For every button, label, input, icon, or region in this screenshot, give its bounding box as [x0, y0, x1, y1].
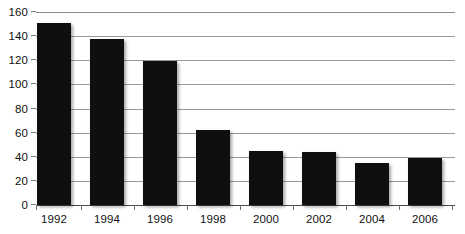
- x-axis-tick-label: 2004: [345, 212, 399, 227]
- y-axis-tick-label: 140: [9, 29, 29, 43]
- x-axis-tick-mark: [36, 205, 37, 210]
- x-axis-tick-mark: [187, 205, 188, 210]
- bar: [302, 152, 336, 205]
- y-axis-tick-label: 100: [9, 77, 29, 91]
- bar: [355, 163, 389, 205]
- x-axis-tick-mark: [399, 205, 400, 210]
- x-axis-tick-label: 1994: [80, 212, 134, 227]
- y-axis-tick: 0: [0, 198, 36, 212]
- y-axis-tick: 60: [0, 126, 36, 140]
- bar: [249, 151, 283, 205]
- gridline: [36, 12, 455, 13]
- x-axis-tick-label: 1992: [27, 212, 81, 227]
- y-axis-tick: 40: [0, 150, 36, 164]
- bar: [37, 23, 71, 205]
- y-axis-tick-label: 120: [9, 53, 29, 67]
- plot-area: [36, 12, 455, 205]
- y-axis-tick-label: 160: [9, 5, 29, 19]
- bar: [196, 130, 230, 205]
- x-axis-tick-label: 1998: [186, 212, 240, 227]
- x-axis-tick-label: 2006: [398, 212, 452, 227]
- y-axis-tick-label: 0: [22, 198, 29, 212]
- x-axis-tick-mark: [293, 205, 294, 210]
- y-axis-tick-label: 20: [15, 174, 28, 188]
- x-axis: 19921994199619982000200220042006: [36, 212, 455, 232]
- x-axis-tick-mark: [452, 205, 453, 210]
- y-axis-tick-label: 80: [15, 102, 28, 116]
- y-axis: 020406080100120140160: [0, 0, 36, 234]
- y-axis-tick: 20: [0, 174, 36, 188]
- x-axis-tick-mark: [346, 205, 347, 210]
- x-axis-tick-label: 1996: [133, 212, 187, 227]
- x-axis-tick-mark: [81, 205, 82, 210]
- y-axis-tick: 100: [0, 77, 36, 91]
- bar: [143, 61, 177, 205]
- y-axis-tick: 160: [0, 5, 36, 19]
- y-axis-tick-label: 60: [15, 126, 28, 140]
- x-axis-tick-label: 2000: [239, 212, 293, 227]
- y-axis-tick: 120: [0, 53, 36, 67]
- bar: [90, 39, 124, 205]
- bar-chart: 020406080100120140160 199219941996199820…: [0, 0, 465, 234]
- x-axis-tick-label: 2002: [292, 212, 346, 227]
- gridline: [36, 36, 455, 37]
- x-axis-ticks: [36, 205, 455, 211]
- y-axis-tick: 80: [0, 102, 36, 116]
- bar: [408, 158, 442, 205]
- y-axis-tick: 140: [0, 29, 36, 43]
- x-axis-tick-mark: [240, 205, 241, 210]
- x-axis-tick-mark: [134, 205, 135, 210]
- y-axis-tick-label: 40: [15, 150, 28, 164]
